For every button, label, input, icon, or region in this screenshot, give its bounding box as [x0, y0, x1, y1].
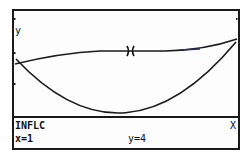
y-tick-mid — [14, 52, 16, 54]
vertex-marker — [130, 114, 132, 116]
curve-upper — [15, 39, 237, 64]
graph-area — [0, 0, 248, 158]
x-axis-label: X — [230, 121, 236, 131]
y-tick-low — [14, 83, 16, 85]
curve-parabola — [16, 42, 236, 113]
x-readout: x=1 — [15, 134, 33, 144]
y-axis-label: y — [15, 26, 21, 36]
mode-label: INFLC — [15, 121, 45, 131]
y-readout: y=4 — [128, 134, 146, 144]
curve-upper-highlight — [180, 49, 200, 50]
y-tick-top — [14, 18, 16, 20]
right-tick-top — [236, 18, 238, 20]
